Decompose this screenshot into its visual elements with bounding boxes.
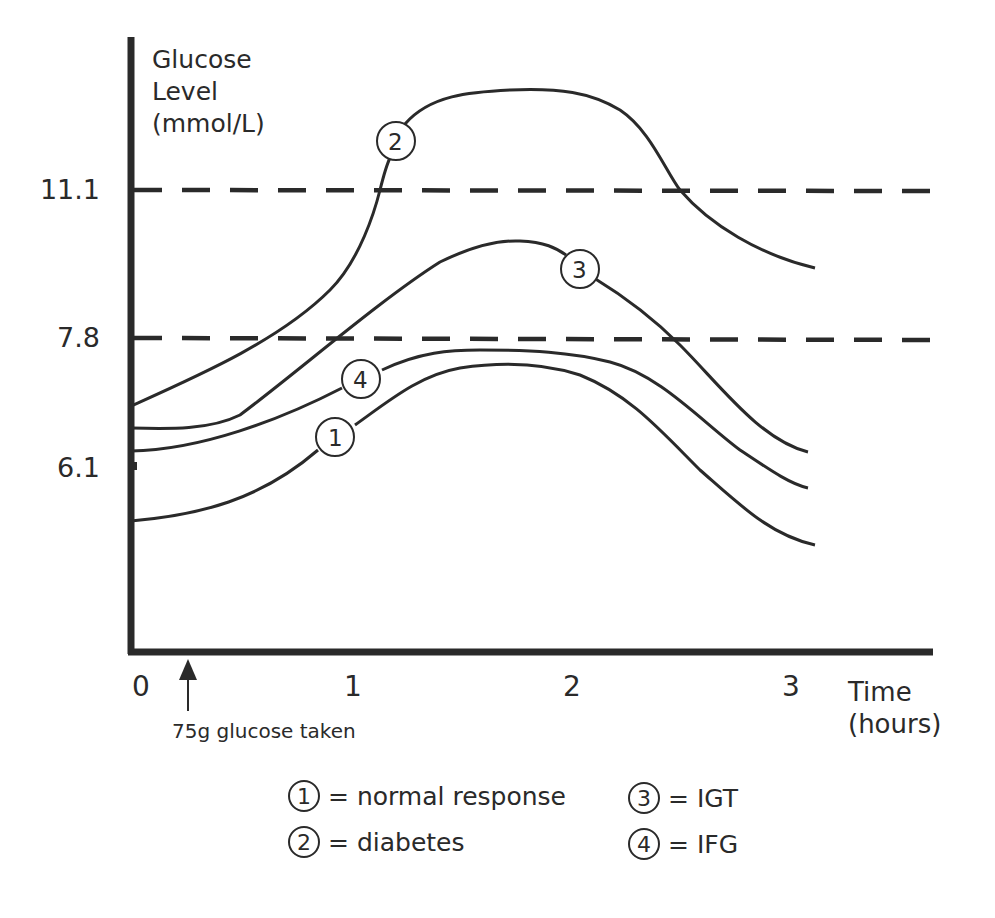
legend-item-ifg: 4 = IFG <box>628 828 738 860</box>
x-axis-title: Time (hours) <box>848 676 941 740</box>
x-tick-2: 2 <box>563 672 581 702</box>
y-axis-title-line3: (mmol/L) <box>152 108 265 140</box>
y-tick-11-1: 11.1 <box>10 175 100 205</box>
legend-circle-1: 1 <box>288 780 320 812</box>
y-axis-title-line2: Level <box>152 76 265 108</box>
curve-label-2-text: 2 <box>388 127 403 157</box>
x-tick-1: 1 <box>344 672 362 702</box>
legend-item-diabetes: 2 = diabetes <box>288 826 465 858</box>
legend-text-diabetes: = diabetes <box>328 828 465 857</box>
glucose-taken-arrow-icon <box>179 659 197 711</box>
glucose-taken-annotation: 75g glucose taken <box>172 716 356 746</box>
y-tick-6-1-mark <box>131 462 137 470</box>
threshold-line-11-1 <box>134 190 933 191</box>
x-axis-title-line1: Time <box>848 676 941 708</box>
curve-label-1-text: 1 <box>328 423 343 453</box>
curve-igt <box>131 241 808 452</box>
legend-text-ifg: = IFG <box>668 830 738 859</box>
x-axis-title-line2: (hours) <box>848 708 941 740</box>
legend-item-igt: 3 = IGT <box>628 782 738 814</box>
legend-circle-2: 2 <box>288 826 320 858</box>
legend-text-igt: = IGT <box>668 784 738 813</box>
y-tick-6-1: 6.1 <box>10 453 100 483</box>
curve-normal <box>131 364 815 545</box>
legend-circle-4: 4 <box>628 828 660 860</box>
legend-text-normal: = normal response <box>328 782 566 811</box>
x-tick-3: 3 <box>782 672 800 702</box>
curve-label-4-text: 4 <box>353 365 368 395</box>
y-tick-7-8: 7.8 <box>10 323 100 353</box>
x-tick-0: 0 <box>132 672 150 702</box>
curve-label-3-text: 3 <box>572 255 587 285</box>
legend-item-normal: 1 = normal response <box>288 780 566 812</box>
legend-circle-3: 3 <box>628 782 660 814</box>
y-axis-title: Glucose Level (mmol/L) <box>152 44 265 140</box>
y-axis-title-line1: Glucose <box>152 44 265 76</box>
threshold-line-7-8 <box>134 338 933 340</box>
